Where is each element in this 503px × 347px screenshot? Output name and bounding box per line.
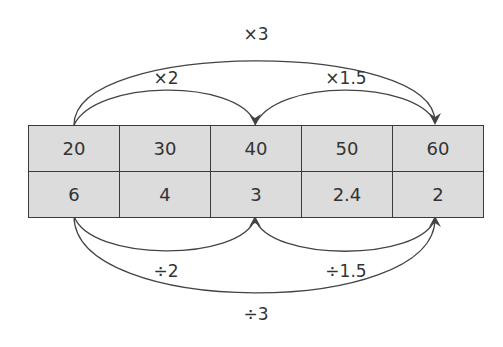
table-cell: 50 — [302, 126, 393, 172]
table-cell: 60 — [393, 126, 484, 172]
label-times2: ×2 — [153, 68, 178, 88]
arc-div1-5 — [255, 219, 435, 251]
arc-times1-5 — [255, 90, 435, 125]
label-div3: ÷3 — [243, 304, 268, 324]
label-div1-5: ÷1.5 — [325, 261, 366, 281]
arc-times2 — [74, 90, 255, 125]
arrowhead-times2 — [249, 114, 261, 125]
ratio-table: 20 30 40 50 60 6 4 3 2.4 2 — [28, 125, 484, 218]
table-cell: 6 — [29, 172, 120, 218]
table-cell: 40 — [211, 126, 302, 172]
label-times1-5: ×1.5 — [325, 68, 366, 88]
table-cell: 30 — [120, 126, 211, 172]
arc-div3 — [74, 216, 435, 293]
table-cell: 2 — [393, 172, 484, 218]
table-cell: 2.4 — [302, 172, 393, 218]
label-div2: ÷2 — [153, 261, 178, 281]
table-row-bottom: 6 4 3 2.4 2 — [29, 172, 484, 218]
table-cell: 4 — [120, 172, 211, 218]
label-times3: ×3 — [243, 24, 268, 44]
arc-div2 — [74, 216, 255, 251]
table-cell: 20 — [29, 126, 120, 172]
table-row-top: 20 30 40 50 60 — [29, 126, 484, 172]
table-cell: 3 — [211, 172, 302, 218]
